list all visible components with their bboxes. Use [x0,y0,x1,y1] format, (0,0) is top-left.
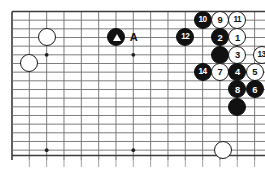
stone-move-number: 8 [235,85,240,94]
stone-white-5[interactable]: 5 [246,63,264,81]
stone-move-number: 1 [235,33,240,42]
star-point [131,53,135,57]
stone-move-number: 2 [218,33,223,42]
stone-move-number: 14 [199,68,207,76]
stone-move-number: 4 [235,67,240,76]
stone-black[interactable] [211,46,229,64]
stone-white-3[interactable]: 3 [228,46,246,64]
star-point [45,53,49,57]
stone-move-number: 3 [235,50,240,59]
stone-white-7[interactable]: 7 [211,63,229,81]
stone-black-6[interactable]: 6 [246,80,264,98]
stone-move-number: 6 [252,85,257,94]
stone-move-number: 10 [199,16,207,24]
stone-move-number: 12 [181,33,189,41]
triangle-mark-icon [113,34,121,41]
stone-move-number: 9 [218,15,223,24]
stone-white-9[interactable]: 9 [211,11,229,29]
stone-black[interactable] [228,98,246,116]
star-point [45,148,49,152]
go-diagram: 1210911213131474586 A [0,0,265,169]
point-label-a: A [130,32,138,43]
stone-black-14[interactable]: 14 [194,63,212,81]
stone-black-10[interactable]: 10 [194,11,212,29]
star-point [131,148,135,152]
stone-move-number: 11 [233,16,241,24]
stone-move-number: 13 [257,51,265,59]
stone-move-number: 7 [218,67,223,76]
stone-move-number: 5 [252,67,257,76]
